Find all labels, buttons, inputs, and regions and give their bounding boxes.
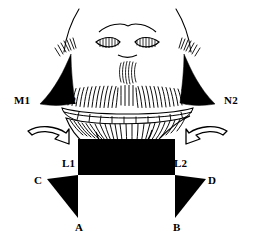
wedge-lower-right: [175, 175, 206, 218]
label-l2: L2: [174, 158, 187, 169]
label-a: A: [75, 222, 83, 233]
label-m1: M1: [14, 95, 30, 106]
figure-illustration: [0, 0, 255, 243]
label-l1: L1: [62, 158, 75, 169]
label-c: C: [34, 175, 42, 186]
label-d: D: [208, 175, 216, 186]
wedge-lower-left: [47, 175, 78, 218]
arrow-left: [28, 127, 69, 144]
label-m2: M2: [60, 95, 76, 106]
label-n1: N1: [184, 93, 198, 104]
anatomical-diagram: M1 M2 N1 N2 L1 L2 C D A B: [0, 0, 255, 243]
arrow-right: [186, 127, 227, 144]
label-b: B: [173, 222, 181, 233]
label-n2: N2: [224, 95, 238, 106]
